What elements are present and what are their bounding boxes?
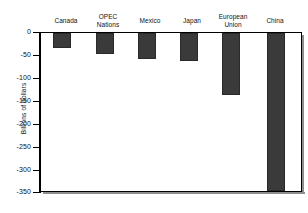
y-tick-label-100: -100 (17, 74, 31, 81)
y-tick-label-200: -200 (17, 120, 31, 127)
y-tick-label-300: -300 (17, 166, 31, 173)
y-tick-label-0: 0 (27, 28, 31, 35)
y-tick-label-150: -150 (17, 97, 31, 104)
bar-canada (53, 33, 71, 48)
y-tick-label-250: -250 (17, 143, 31, 150)
bar-china (267, 33, 285, 191)
plot-shadow-bottom (43, 192, 305, 194)
bar-japan (180, 33, 198, 61)
bar-chart-figure: Billions of dollars 0 -50 -100 -150 -200… (0, 0, 308, 213)
y-tick-label-350: -350 (17, 188, 31, 195)
bar-mexico (138, 33, 156, 59)
category-label-china: China (249, 17, 301, 25)
bar-opec-nations (96, 33, 114, 54)
plot-area (40, 32, 302, 192)
clipped-header-text (6, 0, 302, 9)
y-tick-label-50: -50 (21, 51, 31, 58)
y-axis-spine (39, 32, 41, 193)
bar-european-union (222, 33, 240, 95)
plot-shadow-right (302, 35, 304, 194)
